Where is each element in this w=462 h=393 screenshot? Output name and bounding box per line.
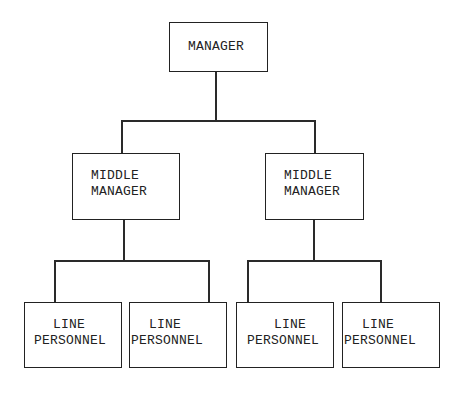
middle-manager-box-left: MIDDLE MANAGER bbox=[72, 153, 180, 220]
middle-manager-label-line1: MIDDLE bbox=[91, 168, 139, 184]
connector-middle-right-down bbox=[313, 220, 315, 261]
connector-to-line-2 bbox=[208, 260, 210, 302]
connector-to-middle-right bbox=[314, 120, 316, 153]
line-personnel-label-line1: LINE bbox=[362, 317, 394, 333]
org-chart: MANAGER MIDDLE MANAGER MIDDLE MANAGER LI… bbox=[0, 0, 462, 393]
connector-to-line-1 bbox=[54, 260, 56, 302]
connector-to-line-3 bbox=[247, 260, 249, 302]
line-personnel-label-line1: LINE bbox=[149, 317, 181, 333]
line-personnel-box-2: LINE PERSONNEL bbox=[129, 302, 227, 368]
line-personnel-box-3: LINE PERSONNEL bbox=[236, 302, 334, 368]
middle-manager-label-line1: MIDDLE bbox=[284, 168, 332, 184]
connector-to-line-4 bbox=[380, 260, 382, 302]
manager-box: MANAGER bbox=[169, 22, 268, 72]
line-personnel-label-line2: PERSONNEL bbox=[344, 333, 416, 349]
line-personnel-label-line2: PERSONNEL bbox=[131, 333, 203, 349]
middle-manager-label-line2: MANAGER bbox=[91, 184, 147, 200]
connector-middle-left-down bbox=[123, 220, 125, 261]
line-personnel-label-line2: PERSONNEL bbox=[247, 333, 319, 349]
middle-manager-label-line2: MANAGER bbox=[284, 184, 340, 200]
connector-manager-down bbox=[215, 72, 217, 121]
manager-label: MANAGER bbox=[188, 39, 244, 55]
line-personnel-label-line1: LINE bbox=[53, 317, 85, 333]
middle-manager-box-right: MIDDLE MANAGER bbox=[265, 153, 364, 220]
connector-to-middle-left bbox=[121, 120, 123, 153]
line-personnel-box-4: LINE PERSONNEL bbox=[342, 302, 440, 368]
line-personnel-label-line1: LINE bbox=[274, 317, 306, 333]
line-personnel-label-line2: PERSONNEL bbox=[34, 333, 106, 349]
connector-left-group-horizontal bbox=[54, 260, 209, 262]
connector-level1-horizontal bbox=[121, 120, 316, 122]
connector-right-group-horizontal bbox=[247, 260, 382, 262]
line-personnel-box-1: LINE PERSONNEL bbox=[24, 302, 122, 368]
